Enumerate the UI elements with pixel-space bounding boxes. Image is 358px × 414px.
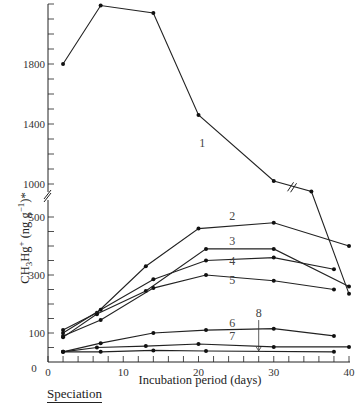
series-line-8 — [63, 350, 334, 352]
x-tick-label: 0 — [45, 366, 51, 378]
data-point — [95, 346, 99, 350]
series-label-2: 2 — [229, 209, 235, 223]
series-label-8: 8 — [256, 306, 262, 320]
series-lines — [61, 4, 351, 354]
y-tick-label: 100 — [29, 327, 46, 339]
series-label-1: 1 — [199, 136, 205, 150]
data-point — [144, 344, 148, 348]
series-label-6: 6 — [229, 316, 235, 330]
series-line-5 — [63, 275, 334, 336]
data-point — [99, 341, 103, 345]
data-point — [332, 267, 336, 271]
y-tick-label: 1800 — [23, 58, 46, 70]
x-tick-label: 30 — [268, 366, 280, 378]
data-point — [272, 247, 276, 251]
series-line-6 — [63, 329, 334, 352]
data-point — [204, 328, 208, 332]
data-point — [332, 350, 336, 354]
data-point — [151, 331, 155, 335]
data-point — [61, 350, 65, 354]
data-point — [99, 318, 103, 322]
data-point — [309, 190, 313, 194]
data-point — [272, 221, 276, 225]
data-point — [61, 62, 65, 66]
speciation-heading: Speciation — [47, 386, 102, 403]
data-point — [99, 308, 103, 312]
data-point — [197, 227, 201, 231]
data-point — [99, 4, 103, 8]
data-point — [204, 273, 208, 277]
data-point — [197, 342, 201, 346]
data-point — [99, 350, 103, 354]
x-axis-title: Incubation period (days) — [139, 373, 262, 387]
line-chart: 0102030400100300500100014001800 12345678… — [0, 0, 358, 414]
series-line-4 — [63, 258, 334, 333]
data-point — [204, 247, 208, 251]
data-point — [144, 264, 148, 268]
data-point — [61, 334, 65, 338]
data-point — [347, 345, 351, 349]
data-point — [151, 277, 155, 281]
data-point — [151, 348, 155, 352]
data-point — [332, 334, 336, 338]
series-label-7: 7 — [229, 329, 235, 343]
data-point — [272, 279, 276, 283]
data-point — [204, 259, 208, 263]
y-tick-label: 1000 — [23, 178, 46, 190]
data-point — [272, 327, 276, 331]
y-axis-title: CH3Hg+ (ng g−1)* — [16, 192, 34, 283]
series-labels: 12345678 — [199, 136, 261, 351]
data-point — [151, 11, 155, 15]
data-point — [204, 349, 208, 353]
data-point — [272, 179, 276, 183]
data-point — [272, 345, 276, 349]
data-point — [347, 285, 351, 289]
data-point — [332, 288, 336, 292]
data-point — [151, 286, 155, 290]
series-label-3: 3 — [229, 234, 235, 248]
data-point — [197, 113, 201, 117]
x-tick-label: 40 — [344, 366, 356, 378]
y-tick-label: 1400 — [23, 118, 46, 130]
x-tick-label: 10 — [118, 366, 130, 378]
y-tick-label: 0 — [31, 362, 37, 374]
series-label-5: 5 — [229, 273, 235, 287]
series-label-4: 4 — [229, 254, 235, 268]
data-point — [272, 256, 276, 260]
data-point — [347, 244, 351, 248]
data-point — [347, 292, 351, 296]
axes: 0102030400100300500100014001800 — [23, 4, 355, 378]
